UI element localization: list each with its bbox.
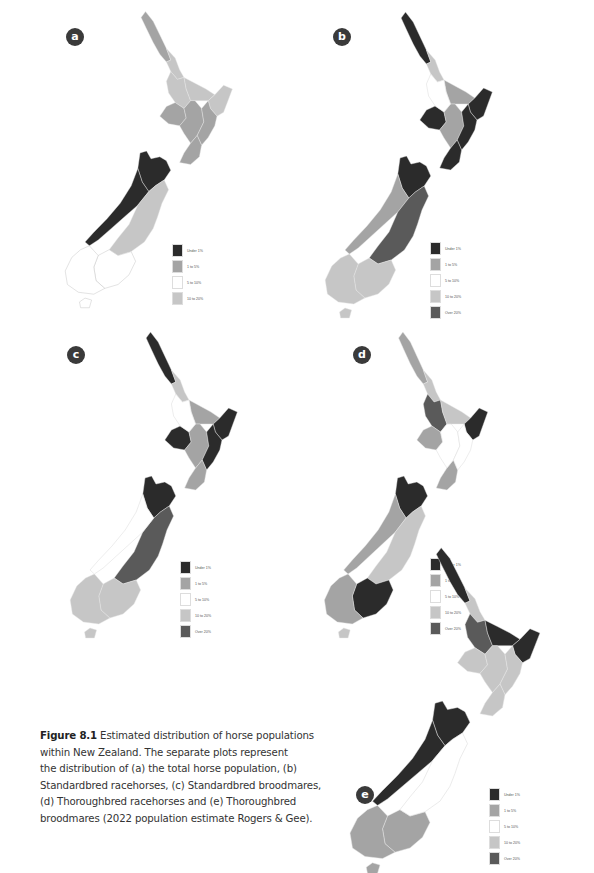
legend-item: Under 1% bbox=[172, 243, 203, 258]
legend-item: 5 to 10% bbox=[180, 592, 211, 607]
legend-item: 1 to 5% bbox=[430, 257, 461, 272]
legend-item: Over 20% bbox=[430, 305, 461, 320]
swatch-5-to-10 bbox=[489, 820, 500, 833]
nz-map-e bbox=[310, 535, 560, 865]
legend-label: Under 1% bbox=[195, 566, 211, 570]
legend-item: Under 1% bbox=[430, 241, 461, 256]
legend-label: 5 to 10% bbox=[504, 825, 518, 829]
nz-map-b bbox=[290, 0, 510, 310]
map-panel-c: c Under 1% 1 to 5% 5 to 10% 10 to 20% Ov… bbox=[30, 320, 270, 640]
caption-line-5: (d) Thoroughbred racehorses and (e) Thor… bbox=[40, 794, 340, 811]
legend-b: Under 1% 1 to 5% 5 to 10% 10 to 20% Over… bbox=[430, 241, 461, 321]
legend-item: Under 1% bbox=[180, 560, 211, 575]
legend-label: 1 to 5% bbox=[445, 263, 457, 267]
legend-label: Under 1% bbox=[187, 249, 203, 253]
map-panel-b: b Under 1% 1 to 5% 5 to 10% 10 to 20% Ov… bbox=[280, 0, 520, 320]
legend-item: 10 to 20% bbox=[489, 835, 520, 850]
swatch-10-to-20 bbox=[430, 290, 441, 303]
legend-label: Over 20% bbox=[195, 630, 211, 634]
legend-label: 1 to 5% bbox=[504, 809, 516, 813]
swatch-under-1 bbox=[180, 561, 191, 574]
swatch-5-to-10 bbox=[430, 274, 441, 287]
swatch-over-20 bbox=[489, 852, 500, 865]
caption-line-4: Standardbred racehorses, (c) Standardbre… bbox=[40, 778, 340, 795]
panel-badge-d: d bbox=[353, 346, 371, 364]
caption-line-6: broodmares (2022 population estimate Rog… bbox=[40, 811, 340, 828]
map-panel-e: e Under 1% 1 to 5% 5 to 10% 10 to 20% Ov… bbox=[330, 540, 594, 873]
swatch-over-20 bbox=[180, 625, 191, 638]
legend-label: 1 to 5% bbox=[187, 265, 199, 269]
panel-badge-c: c bbox=[67, 346, 85, 364]
figure-caption: Figure 8.1 Estimated distribution of hor… bbox=[40, 728, 340, 828]
swatch-under-1 bbox=[489, 788, 500, 801]
legend-item: 10 to 20% bbox=[180, 608, 211, 623]
panel-badge-e: e bbox=[356, 786, 374, 804]
legend-label: 10 to 20% bbox=[195, 614, 211, 618]
swatch-under-1 bbox=[430, 242, 441, 255]
caption-line-1: Figure 8.1 Estimated distribution of hor… bbox=[40, 728, 340, 745]
nz-map-a bbox=[30, 0, 250, 300]
legend-item: 10 to 20% bbox=[172, 291, 203, 306]
nz-map-c bbox=[35, 320, 255, 630]
legend-item: 1 to 5% bbox=[172, 259, 203, 274]
legend-label: 5 to 10% bbox=[445, 279, 459, 283]
legend-label: Over 20% bbox=[504, 857, 520, 861]
legend-label: Under 1% bbox=[445, 247, 461, 251]
legend-item: 1 to 5% bbox=[180, 576, 211, 591]
legend-item: Over 20% bbox=[180, 624, 211, 639]
legend-label: 10 to 20% bbox=[504, 841, 520, 845]
panel-badge-b: b bbox=[333, 28, 351, 46]
swatch-under-1 bbox=[172, 244, 183, 257]
swatch-5-to-10 bbox=[180, 593, 191, 606]
legend-a: Under 1% 1 to 5% 5 to 10% 10 to 20% bbox=[172, 243, 203, 307]
legend-item: 10 to 20% bbox=[430, 289, 461, 304]
legend-label: 10 to 20% bbox=[187, 297, 203, 301]
legend-e: Under 1% 1 to 5% 5 to 10% 10 to 20% Over… bbox=[489, 787, 520, 867]
legend-item: Under 1% bbox=[489, 787, 520, 802]
legend-item: 5 to 10% bbox=[489, 819, 520, 834]
legend-label: Under 1% bbox=[504, 793, 520, 797]
swatch-10-to-20 bbox=[489, 836, 500, 849]
legend-item: Over 20% bbox=[489, 851, 520, 866]
swatch-10-to-20 bbox=[180, 609, 191, 622]
caption-line-3: the distribution of (a) the total horse … bbox=[40, 761, 340, 778]
swatch-5-to-10 bbox=[172, 276, 183, 289]
legend-c: Under 1% 1 to 5% 5 to 10% 10 to 20% Over… bbox=[180, 560, 211, 640]
caption-line-2: within New Zealand. The separate plots r… bbox=[40, 745, 340, 762]
legend-label: 5 to 10% bbox=[195, 598, 209, 602]
swatch-10-to-20 bbox=[172, 292, 183, 305]
swatch-over-20 bbox=[430, 306, 441, 319]
swatch-1-to-5 bbox=[489, 804, 500, 817]
legend-label: 10 to 20% bbox=[445, 295, 461, 299]
figure-label: Figure 8.1 bbox=[40, 730, 97, 741]
legend-item: 1 to 5% bbox=[489, 803, 520, 818]
legend-item: 5 to 10% bbox=[172, 275, 203, 290]
legend-item: 5 to 10% bbox=[430, 273, 461, 288]
swatch-1-to-5 bbox=[180, 577, 191, 590]
map-panel-a: a Under 1% 1 to 5% 5 to 10% 10 to 20% bbox=[20, 0, 260, 300]
legend-label: Over 20% bbox=[445, 311, 461, 315]
swatch-1-to-5 bbox=[430, 258, 441, 271]
swatch-1-to-5 bbox=[172, 260, 183, 273]
panel-badge-a: a bbox=[66, 28, 84, 46]
legend-label: 5 to 10% bbox=[187, 281, 201, 285]
legend-label: 1 to 5% bbox=[195, 582, 207, 586]
